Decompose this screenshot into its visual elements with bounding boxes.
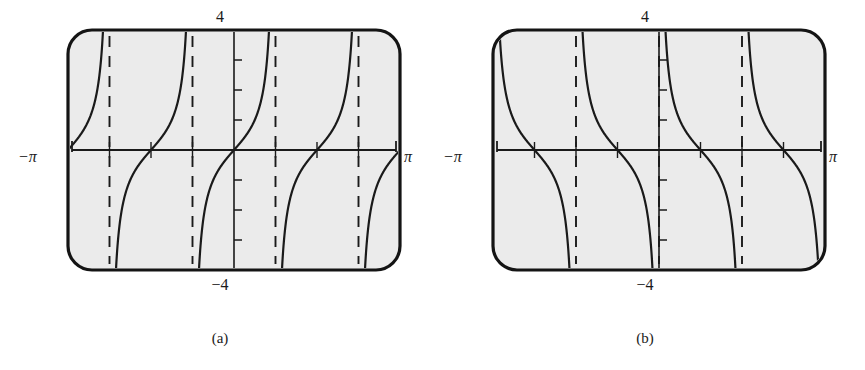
panel-a-caption: (a) (0, 330, 440, 347)
panel-b-plot (425, 0, 865, 320)
panel-b-svg (425, 0, 865, 320)
panel-a-svg (0, 0, 440, 320)
trig-graph-figure: 4 −π π −4 (a) 4 −π π −4 (b) (0, 0, 865, 370)
panel-a-plot (0, 0, 440, 320)
panel-b-caption: (b) (425, 330, 865, 347)
panel-a: 4 −π π −4 (a) (0, 0, 440, 370)
panel-b: 4 −π π −4 (b) (425, 0, 865, 370)
